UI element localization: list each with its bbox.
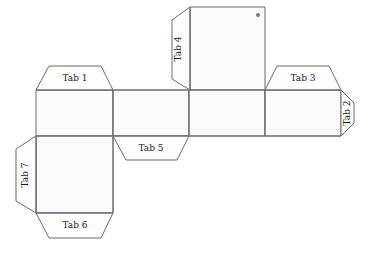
tab-7-label: Tab 7 — [20, 162, 30, 187]
face-row-1 — [36, 90, 113, 136]
face-bottom-left — [36, 136, 113, 213]
net-svg-canvas: Tab 4 Tab 1 Tab 3 Tab 2 Tab 5 Tab 7 Tab … — [0, 0, 378, 254]
cube-net-diagram: Tab 4 Tab 1 Tab 3 Tab 2 Tab 5 Tab 7 Tab … — [0, 0, 378, 254]
corner-dot-icon — [256, 13, 260, 17]
tab-4-label: Tab 4 — [173, 36, 183, 61]
face-row-3 — [189, 90, 265, 136]
tab-3-label: Tab 3 — [290, 73, 315, 83]
tab-1-label: Tab 1 — [62, 73, 87, 83]
face-top — [190, 7, 265, 90]
face-row-4 — [265, 90, 341, 136]
tab-5-label: Tab 5 — [138, 143, 163, 153]
tab-6-label: Tab 6 — [62, 220, 87, 230]
face-row-2 — [113, 90, 189, 136]
tab-2-label: Tab 2 — [342, 100, 352, 125]
